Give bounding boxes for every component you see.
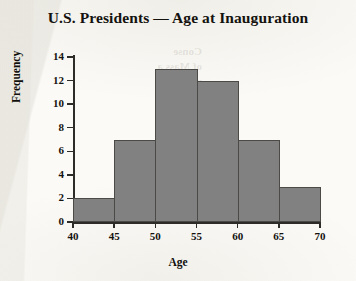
histogram-figure: U.S. Presidents — Age at Inauguration Fr…: [0, 0, 356, 281]
y-tick-label-4: 4: [24, 168, 64, 180]
x-tick-label-55: 55: [182, 230, 212, 242]
x-tick-label-65: 65: [264, 230, 294, 242]
plot-area: [73, 57, 320, 222]
y-axis-title: Frequency: [10, 51, 22, 103]
histogram-bar: [279, 187, 322, 222]
x-tick-40: [72, 222, 74, 228]
x-tick-50: [155, 222, 157, 228]
x-tick-70: [319, 222, 321, 228]
y-tick-label-8: 8: [24, 121, 64, 133]
histogram-bar: [155, 69, 198, 222]
x-tick-label-45: 45: [99, 230, 129, 242]
x-tick-label-60: 60: [223, 230, 253, 242]
x-tick-60: [237, 222, 239, 228]
chart-title: U.S. Presidents — Age at Inauguration: [0, 9, 356, 27]
x-tick-label-50: 50: [140, 230, 170, 242]
histogram-bar: [197, 81, 240, 222]
x-tick-55: [196, 222, 198, 228]
y-tick-label-14: 14: [24, 50, 64, 62]
y-tick-label-2: 2: [24, 191, 64, 203]
histogram-bar: [238, 140, 281, 223]
x-axis-title: Age: [0, 256, 356, 268]
y-tick-label-6: 6: [24, 144, 64, 156]
x-tick-label-70: 70: [305, 230, 335, 242]
y-tick-label-10: 10: [24, 97, 64, 109]
x-tick-65: [278, 222, 280, 228]
x-tick-label-40: 40: [58, 230, 88, 242]
histogram-bar: [114, 140, 157, 223]
y-tick-label-0: 0: [24, 215, 64, 227]
x-tick-45: [113, 222, 115, 228]
y-tick-label-12: 12: [24, 74, 64, 86]
histogram-bar: [73, 198, 116, 222]
